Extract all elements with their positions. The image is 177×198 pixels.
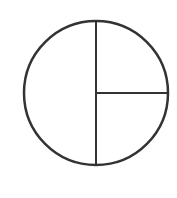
diagram-canvas xyxy=(0,0,177,198)
fraction-circle-diagram xyxy=(0,0,177,198)
